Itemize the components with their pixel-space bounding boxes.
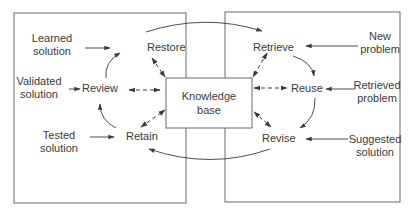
input-suggested-line1: Suggested: [349, 133, 402, 145]
node-restore: Restore: [147, 41, 186, 53]
input-retrieved-line1: Retrieved: [353, 79, 400, 91]
input-suggested-line2: solution: [356, 146, 394, 158]
node-review: Review: [82, 82, 118, 94]
node-retrieve: Retrieve: [253, 41, 294, 53]
knowledge-base-label-line2: base: [197, 104, 221, 116]
knowledge-base-box: [166, 78, 252, 128]
input-learned-line2: solution: [33, 45, 71, 57]
node-revise: Revise: [262, 132, 296, 144]
input-validated-line2: solution: [20, 88, 58, 100]
cbr-diagram: Knowledge base Restore Review Retain Ret…: [0, 0, 409, 213]
knowledge-base-label-line1: Knowledge: [182, 90, 236, 102]
input-validated-line1: Validated: [16, 75, 61, 87]
input-new-line2: problem: [360, 43, 400, 55]
input-tested-line2: solution: [40, 142, 78, 154]
input-retrieved-line2: problem: [357, 92, 397, 104]
input-tested-line1: Tested: [43, 129, 75, 141]
node-retain: Retain: [126, 130, 158, 142]
input-new-line1: New: [369, 30, 391, 42]
node-reuse: Reuse: [291, 82, 323, 94]
input-learned-line1: Learned: [32, 32, 72, 44]
